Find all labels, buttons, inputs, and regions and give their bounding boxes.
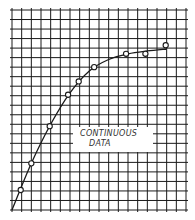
annotation-line-2: DATA (89, 139, 111, 148)
data-point-marker (143, 51, 148, 56)
grid (10, 8, 188, 212)
data-point-marker (92, 65, 97, 70)
data-point-marker (123, 51, 128, 56)
data-point-marker (29, 161, 34, 166)
data-point-marker (47, 124, 52, 129)
data-point-marker (163, 43, 168, 48)
data-point-marker (18, 187, 23, 192)
data-point-marker (65, 92, 70, 97)
continuous-data-chart (0, 0, 195, 220)
data-point-marker (76, 79, 81, 84)
annotation-line-1: CONTINUOUS (80, 129, 137, 138)
